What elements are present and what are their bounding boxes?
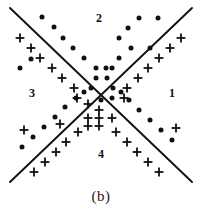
data-point-dot (111, 86, 116, 91)
data-point-dot (82, 56, 87, 61)
data-point-dot (170, 138, 175, 143)
data-point-dot (89, 86, 94, 91)
data-point-dot (53, 115, 58, 120)
scatter-plot: 1234 (0, 0, 202, 190)
data-point-dot (126, 26, 131, 31)
data-point-dot (52, 25, 57, 30)
data-point-dot (156, 16, 161, 21)
data-point-dot (18, 66, 23, 71)
data-point-dot (71, 46, 76, 51)
data-point-dot (148, 118, 153, 123)
data-point-dot (94, 66, 99, 71)
data-point-dot (20, 145, 25, 150)
data-point-dot (29, 57, 34, 62)
data-point-dot (137, 108, 142, 113)
data-point-dot (99, 98, 104, 103)
region-1-label: 1 (169, 86, 175, 100)
data-point-dot (148, 46, 153, 51)
data-point-dot (61, 36, 66, 41)
data-point-dot (94, 76, 99, 81)
data-point-dot (110, 66, 115, 71)
region-2-label: 2 (96, 11, 102, 25)
data-point-dot (63, 105, 68, 110)
region-3-label: 3 (29, 86, 35, 100)
data-point-dot (137, 16, 142, 21)
data-point-dot (117, 56, 122, 61)
data-point-dot (105, 76, 110, 81)
data-point-dot (129, 46, 134, 51)
data-point-dot (40, 15, 45, 20)
data-point-dot (82, 90, 87, 95)
data-point-dot (117, 36, 122, 41)
plot-canvas: 1234 (0, 0, 202, 190)
data-point-dot (42, 125, 47, 130)
region-4-label: 4 (98, 147, 104, 161)
data-point-dot (31, 135, 36, 140)
data-point-dot (119, 90, 124, 95)
data-point-dot (110, 96, 115, 101)
data-point-dot (104, 66, 109, 71)
figure-caption: (b) (0, 188, 202, 205)
data-point-dot (159, 128, 164, 133)
figure-container: 1234 (b) (0, 0, 202, 220)
